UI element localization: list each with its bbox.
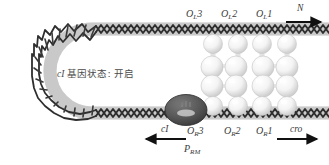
gene-label-N: N xyxy=(297,4,303,14)
figure-canvas: OL3 OL2 OL1 N cI 基因状态: 开启 OR3 OR2 OR1 cI… xyxy=(0,0,329,165)
operator-label-OR3: OR3 xyxy=(187,126,204,138)
lambda-switch-diagram xyxy=(0,0,329,165)
gene-label-cI: cI xyxy=(161,125,168,135)
operator-label-OL3: OL3 xyxy=(186,9,202,21)
promoter-label-PRM: PRM xyxy=(184,144,200,156)
gene-state-caption: cI 基因状态: 开启 xyxy=(57,66,134,80)
gene-state-text: 基因状态: 开启 xyxy=(64,68,133,79)
gene-label-cro: cro xyxy=(290,125,302,135)
operator-label-OR2: OR2 xyxy=(224,126,241,138)
operator-label-OL2: OL2 xyxy=(221,9,237,21)
rna-polymerase xyxy=(165,95,207,126)
operator-label-OR1: OR1 xyxy=(256,126,273,138)
repressor-protein-complex xyxy=(201,35,298,116)
operator-label-OL1: OL1 xyxy=(256,9,272,21)
